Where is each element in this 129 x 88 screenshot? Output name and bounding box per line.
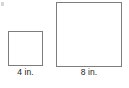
- geometry-figure: 4 in. 8 in.: [0, 0, 129, 88]
- large-square-label: 8 in.: [56, 67, 122, 78]
- small-square-shape: [8, 31, 43, 66]
- scan-artifact-speck: [1, 2, 4, 6]
- large-square-shape: [56, 2, 122, 67]
- small-square-label: 4 in.: [8, 67, 43, 78]
